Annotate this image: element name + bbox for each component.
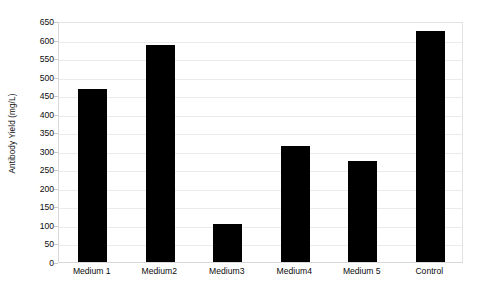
bar <box>348 161 377 262</box>
y-axis-tick-mark <box>54 152 58 153</box>
x-axis-tick-label: Control <box>384 266 474 276</box>
y-axis-tick-mark <box>54 78 58 79</box>
gridline <box>59 190 462 191</box>
y-axis-tick-label: 250 <box>24 165 54 175</box>
y-axis-tick-label: 600 <box>24 36 54 46</box>
y-axis-tick-label: 100 <box>24 221 54 231</box>
y-axis-tick-mark <box>54 41 58 42</box>
y-axis-tick-mark <box>54 207 58 208</box>
y-axis-tick-mark <box>54 133 58 134</box>
gridline <box>59 134 462 135</box>
gridline <box>59 116 462 117</box>
y-axis-tick-label: 150 <box>24 202 54 212</box>
gridline <box>59 153 462 154</box>
bar <box>281 146 310 262</box>
gridline <box>59 60 462 61</box>
gridline <box>59 79 462 80</box>
y-axis-tick-mark <box>54 189 58 190</box>
y-axis-tick-mark <box>54 59 58 60</box>
y-axis-tick-labels: 050100150200250300350400450500550600650 <box>20 0 54 292</box>
y-axis-tick-mark <box>54 96 58 97</box>
gridline <box>59 97 462 98</box>
bar <box>78 89 107 262</box>
bar <box>416 31 445 262</box>
y-axis-tick-label: 50 <box>24 239 54 249</box>
x-axis-tick-labels: Medium 1Medium2Medium3Medium4Medium 5Con… <box>58 266 463 286</box>
y-axis-tick-label: 400 <box>24 110 54 120</box>
y-axis-tick-mark <box>54 22 58 23</box>
plot-area <box>58 22 463 263</box>
y-axis-tick-label: 350 <box>24 128 54 138</box>
y-axis-tick-label: 300 <box>24 147 54 157</box>
y-axis-tick-label: 450 <box>24 91 54 101</box>
y-axis-tick-mark <box>54 226 58 227</box>
y-axis-tick-mark <box>54 244 58 245</box>
y-axis-tick-label: 650 <box>24 17 54 27</box>
y-axis-tick-label: 500 <box>24 73 54 83</box>
bar <box>146 45 175 262</box>
bar-chart-figure: Antibody Yield (mg/L) 050100150200250300… <box>0 0 484 292</box>
gridline <box>59 227 462 228</box>
bar <box>213 224 242 262</box>
gridline <box>59 245 462 246</box>
y-axis-tick-mark <box>54 170 58 171</box>
y-axis-tick-mark <box>54 115 58 116</box>
gridline <box>59 42 462 43</box>
y-axis-title-text: Antibody Yield (mg/L) <box>9 93 18 173</box>
y-axis-tick-label: 200 <box>24 184 54 194</box>
gridline <box>59 171 462 172</box>
y-axis-tick-label: 550 <box>24 54 54 64</box>
gridline <box>59 208 462 209</box>
y-axis-tick-mark <box>54 263 58 264</box>
